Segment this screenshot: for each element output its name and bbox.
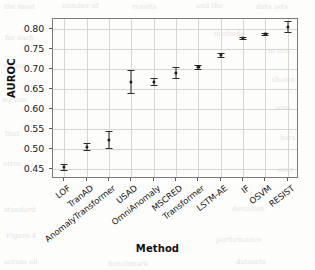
x-gridline <box>109 19 110 177</box>
error-bar-cap <box>128 70 135 71</box>
x-tick-mark <box>220 178 221 181</box>
background-texture-text: data sets <box>256 3 288 11</box>
x-tick-label: IF <box>239 183 251 195</box>
background-texture-text: benchmark <box>108 260 148 268</box>
y-tick-mark <box>49 128 52 129</box>
data-point-marker <box>152 80 155 83</box>
error-bar-cap <box>105 131 112 132</box>
chart-figure: the mostnumber ofresultsand thedata sets… <box>0 0 315 270</box>
y-tick-label: 0.50 <box>0 143 44 154</box>
background-texture-text: and the <box>196 2 223 10</box>
x-tick-mark <box>197 178 198 181</box>
error-bar-cap <box>128 93 135 94</box>
x-gridline <box>288 19 289 177</box>
background-texture-text: for each <box>5 34 34 42</box>
x-tick-mark <box>153 178 154 181</box>
y-gridline <box>53 109 297 110</box>
x-tick-label: RESIST <box>267 183 296 209</box>
x-gridline <box>87 19 88 177</box>
y-gridline <box>53 169 297 170</box>
x-gridline <box>154 19 155 177</box>
x-tick-mark <box>86 178 87 181</box>
x-gridline <box>243 19 244 177</box>
x-tick-mark <box>63 178 64 181</box>
data-point-marker <box>85 145 88 148</box>
background-texture-text: standard <box>4 206 36 214</box>
x-tick-mark <box>130 178 131 181</box>
error-bar-cap <box>83 150 90 151</box>
y-tick-mark <box>49 88 52 89</box>
background-texture-text: number of <box>62 2 99 10</box>
y-gridline <box>53 29 297 30</box>
y-gridline <box>53 129 297 130</box>
data-point-marker <box>107 138 110 141</box>
plot-area <box>52 18 298 178</box>
y-tick-mark <box>49 48 52 49</box>
background-texture-text: across all <box>4 258 38 266</box>
data-point-marker <box>130 81 133 84</box>
y-tick-label: 0.65 <box>0 83 44 94</box>
x-tick-mark <box>108 178 109 181</box>
y-tick-label: 0.45 <box>0 163 44 174</box>
data-point-marker <box>286 25 289 28</box>
y-tick-mark <box>49 28 52 29</box>
error-bar-cap <box>217 57 224 58</box>
x-gridline <box>176 19 177 177</box>
y-tick-label: 0.70 <box>0 63 44 74</box>
background-texture-text: Figure 4 <box>6 232 36 240</box>
x-gridline <box>221 19 222 177</box>
background-texture-text: the most <box>4 3 35 11</box>
error-bar-cap <box>105 148 112 149</box>
y-tick-mark <box>49 168 52 169</box>
error-bar-cap <box>195 69 202 70</box>
x-gridline <box>131 19 132 177</box>
error-bar-cap <box>173 78 180 79</box>
y-tick-mark <box>49 148 52 149</box>
x-gridline <box>265 19 266 177</box>
background-texture-text: deviation <box>232 205 265 213</box>
y-gridline <box>53 49 297 50</box>
background-texture-text: results <box>132 3 156 11</box>
y-tick-label: 0.55 <box>0 123 44 134</box>
data-point-marker <box>197 65 200 68</box>
y-tick-label: 0.80 <box>0 23 44 34</box>
x-tick-mark <box>175 178 176 181</box>
y-gridline <box>53 89 297 90</box>
x-axis-label: Method <box>0 243 315 254</box>
y-tick-label: 0.75 <box>0 43 44 54</box>
y-tick-label: 0.60 <box>0 103 44 114</box>
error-bar-cap <box>284 32 291 33</box>
x-tick-mark <box>287 178 288 181</box>
x-tick-mark <box>264 178 265 181</box>
y-tick-mark <box>49 68 52 69</box>
error-bar-cap <box>150 78 157 79</box>
error-bar-cap <box>284 21 291 22</box>
x-gridline <box>198 19 199 177</box>
x-gridline <box>64 19 65 177</box>
error-bar-cap <box>173 67 180 68</box>
x-tick-mark <box>242 178 243 181</box>
error-bar-cap <box>83 143 90 144</box>
error-bar-cap <box>150 85 157 86</box>
error-bar-cap <box>61 170 68 171</box>
data-point-marker <box>219 53 222 56</box>
background-texture-text: datasets <box>236 258 266 266</box>
y-tick-mark <box>49 108 52 109</box>
data-point-marker <box>174 71 177 74</box>
